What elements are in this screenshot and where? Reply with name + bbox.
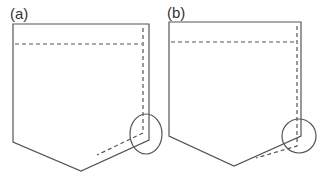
pocket-outline-a <box>13 24 149 171</box>
pocket-diagram <box>0 0 328 176</box>
topstitch-side-a <box>97 28 143 155</box>
pocket-outline-b <box>169 22 301 166</box>
highlight-circle-b <box>282 119 316 153</box>
topstitch-side-b <box>256 26 297 158</box>
panel-a <box>13 24 162 171</box>
panel-b <box>169 22 316 166</box>
highlight-circle-a <box>130 114 162 154</box>
